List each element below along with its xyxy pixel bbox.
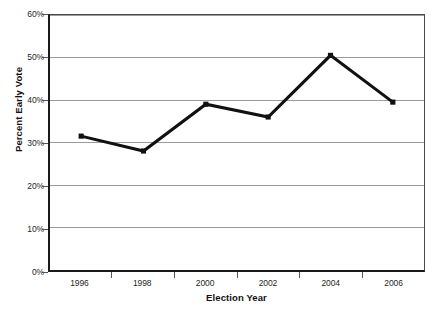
data-point-marker: [79, 134, 84, 139]
data-point-marker: [390, 100, 395, 105]
y-axis-tick-marks: [0, 14, 48, 272]
data-series-layer: [50, 15, 424, 270]
data-point-marker: [141, 148, 146, 153]
x-axis-tick-label: 2004: [301, 278, 361, 289]
x-axis-tick-label: 2002: [238, 278, 298, 289]
x-axis-tick-labels: 199619982000200220042006: [48, 278, 425, 292]
line-chart-figure: 0%10%20%30%40%50%60% Percent Early Vote …: [0, 0, 444, 309]
data-point-marker: [203, 102, 208, 107]
x-axis-tick-label: 1996: [49, 278, 109, 289]
data-point-marker: [328, 53, 333, 58]
plot-area: [48, 14, 425, 272]
x-axis-tick-label: 2000: [175, 278, 235, 289]
data-line: [81, 55, 393, 151]
x-axis-title: Election Year: [48, 292, 425, 303]
x-axis-tick-label: 2006: [364, 278, 424, 289]
data-point-marker: [266, 114, 271, 119]
x-axis-tick-label: 1998: [112, 278, 172, 289]
y-axis-title: Percent Early Vote: [13, 40, 24, 180]
